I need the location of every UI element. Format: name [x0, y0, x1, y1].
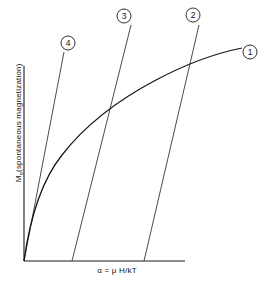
- marker-4: 4: [61, 36, 75, 50]
- series-curve-1: [24, 48, 242, 261]
- y-axis-label-subscript: s: [17, 172, 24, 175]
- marker-3-label: 3: [122, 11, 127, 21]
- marker-2: 2: [186, 8, 200, 22]
- magnetization-figure: 1 2 3 4 Ms(spontaneous magnetization) α …: [0, 0, 269, 285]
- series-line-3: [72, 25, 131, 261]
- marker-3: 3: [117, 9, 131, 23]
- y-axis-label-prefix: M: [14, 175, 23, 182]
- marker-4-label: 4: [66, 38, 71, 48]
- y-axis-label-rest: (spontaneous magnetization): [14, 63, 23, 172]
- x-axis-label: α = μ H/kT: [72, 266, 162, 275]
- y-axis-label: Ms(spontaneous magnetization): [14, 58, 24, 188]
- marker-2-label: 2: [191, 10, 196, 20]
- series-line-2: [144, 25, 199, 261]
- marker-1-label: 1: [248, 47, 253, 57]
- plot-area: 1 2 3 4: [0, 0, 269, 285]
- marker-1: 1: [243, 45, 257, 59]
